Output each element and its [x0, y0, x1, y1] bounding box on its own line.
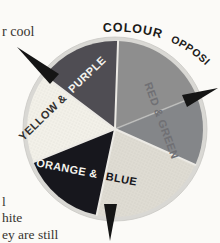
colour-opposites-wheel: YELLOW & PURPLE RED & GREEN ORANGE & BLU…	[0, 0, 220, 243]
book-page: r cool l hite ey are still	[0, 0, 220, 243]
orange-blue-axis-arrow	[104, 204, 117, 241]
